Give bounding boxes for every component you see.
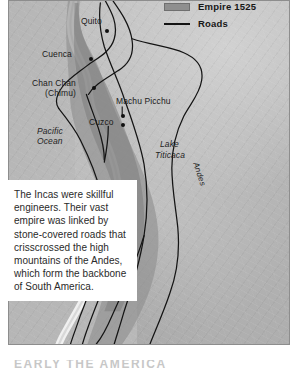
label-lake-titicaca-line2: Titicaca — [155, 151, 185, 161]
map-legend: Empire 1525 Roads — [164, 0, 284, 32]
label-lake-titicaca-line1: Lake — [160, 140, 179, 150]
running-head-text: EARLY THE AMERICA — [14, 360, 234, 369]
city-dot-chan-chan — [92, 86, 96, 90]
legend-swatch-empire-icon — [164, 3, 190, 11]
legend-label-empire: Empire 1525 — [198, 1, 256, 12]
city-dot-quito — [105, 29, 109, 33]
city-dot-cuzco — [121, 123, 125, 127]
city-dot-machu-picchu — [121, 114, 125, 118]
city-dot-cuenca — [89, 57, 93, 61]
legend-item-roads: Roads — [164, 15, 284, 32]
city-label-quito: Quito — [81, 17, 102, 27]
label-pacific-ocean-line2: Ocean — [37, 137, 63, 147]
city-label-cuenca: Cuenca — [42, 50, 72, 60]
city-label-chan-chan-alt: (Chimu) — [45, 89, 76, 99]
city-label-cuzco: Cuzco — [89, 118, 114, 128]
city-label-machu-picchu: Machu Picchu — [116, 97, 171, 107]
caption-box: The Incas were skillful engineers. Their… — [6, 180, 137, 301]
caption-text: The Incas were skillful engineers. Their… — [14, 188, 129, 294]
legend-label-roads: Roads — [198, 18, 228, 29]
running-head: EARLY THE AMERICA — [14, 360, 234, 369]
legend-item-empire: Empire 1525 — [164, 0, 284, 15]
legend-line-roads-icon — [164, 23, 190, 25]
